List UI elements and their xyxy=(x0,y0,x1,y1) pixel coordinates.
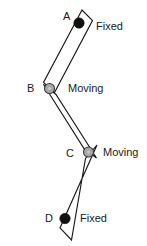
linkage-diagram-svg xyxy=(0,0,147,246)
linkage-diagram-canvas: A B C D Fixed Moving Moving Fixed xyxy=(0,0,147,246)
link-cd-bar xyxy=(60,145,97,240)
link-ab-bar xyxy=(44,10,93,93)
joint-d-fixed-pivot-icon xyxy=(60,213,70,223)
point-label-b: B xyxy=(27,83,34,94)
annotation-fixed-top: Fixed xyxy=(96,21,123,32)
joint-b-moving-pivot-core-icon xyxy=(47,86,51,90)
joint-c-moving-pivot-core-icon xyxy=(86,150,90,154)
point-label-a: A xyxy=(63,11,70,22)
joint-a-fixed-pivot-icon xyxy=(74,18,84,28)
point-label-d: D xyxy=(45,213,53,224)
annotation-fixed-bottom: Fixed xyxy=(80,213,107,224)
annotation-moving-upper: Moving xyxy=(68,83,103,94)
annotation-moving-lower: Moving xyxy=(103,147,138,158)
point-label-c: C xyxy=(66,148,74,159)
